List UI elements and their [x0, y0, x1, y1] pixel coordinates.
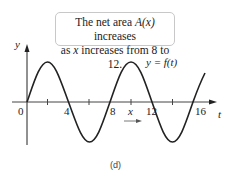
- tick-label-8: 8: [110, 105, 116, 117]
- y-axis-label: y: [14, 38, 20, 50]
- figure-caption: (d): [0, 160, 231, 170]
- origin-label: 0: [18, 105, 24, 117]
- tick-label-4: 4: [64, 105, 70, 117]
- right-arrow-head-icon: [136, 119, 142, 123]
- moving-x-label: x: [127, 105, 133, 117]
- sine-graph: y t 0 4 8 12 16 x y = f(t): [0, 0, 231, 187]
- tick-label-16: 16: [195, 105, 207, 117]
- t-axis-label: t: [218, 108, 222, 120]
- t-axis-arrow-icon: [209, 100, 217, 105]
- tick-label-12: 12: [146, 105, 157, 117]
- y-axis-arrow-icon: [25, 44, 30, 52]
- curve-label: y = f(t): [145, 56, 178, 69]
